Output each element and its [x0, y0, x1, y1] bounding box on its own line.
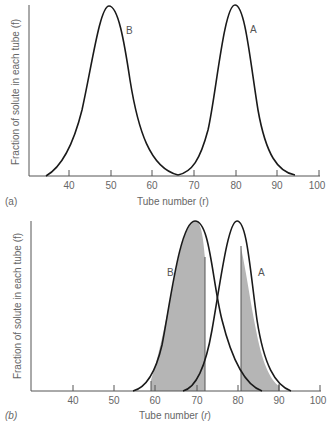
panel-a: B A 40 50 60 70 80 90 100 Tube number (r…: [5, 5, 326, 207]
panel-label-b: (b): [5, 410, 17, 421]
curve-a-a: [178, 5, 295, 175]
label-a-a: A: [250, 24, 257, 35]
tick-labels-b: 40 50 60 70 80 90 100: [67, 395, 326, 406]
x-axis-title-a: Tube number (r): [137, 196, 209, 207]
svg-text:70: 70: [188, 180, 200, 191]
svg-text:40: 40: [67, 395, 79, 406]
y-axis-title-b: Fraction of solute in each tube (f): [12, 233, 23, 379]
shaded-region-b: [151, 221, 205, 391]
panel-label-a: (a): [5, 196, 17, 207]
svg-text:100: 100: [309, 180, 326, 191]
svg-text:100: 100: [310, 395, 327, 406]
tick-labels-a: 40 50 60 70 80 90 100: [63, 180, 325, 191]
label-a-b: A: [258, 267, 265, 278]
panel-b: B A 40 50 60 70 80 90 100 Tube number (r…: [5, 221, 327, 421]
svg-text:60: 60: [146, 180, 158, 191]
label-b-b: B: [167, 267, 174, 278]
label-b-a: B: [126, 25, 133, 36]
svg-text:40: 40: [63, 180, 75, 191]
curve-b-a: [46, 6, 178, 176]
svg-text:70: 70: [191, 395, 203, 406]
x-ticks-a: [69, 170, 319, 176]
svg-text:50: 50: [108, 395, 120, 406]
svg-text:80: 80: [232, 395, 244, 406]
x-axis-title-b: Tube number (r): [139, 410, 211, 421]
svg-text:90: 90: [271, 180, 283, 191]
y-axis-title-a: Fraction of solute in each tube (f): [10, 19, 21, 165]
svg-text:50: 50: [105, 180, 117, 191]
svg-text:80: 80: [230, 180, 242, 191]
svg-text:60: 60: [149, 395, 161, 406]
svg-text:90: 90: [273, 395, 285, 406]
figure: B A 40 50 60 70 80 90 100 Tube number (r…: [0, 0, 335, 431]
